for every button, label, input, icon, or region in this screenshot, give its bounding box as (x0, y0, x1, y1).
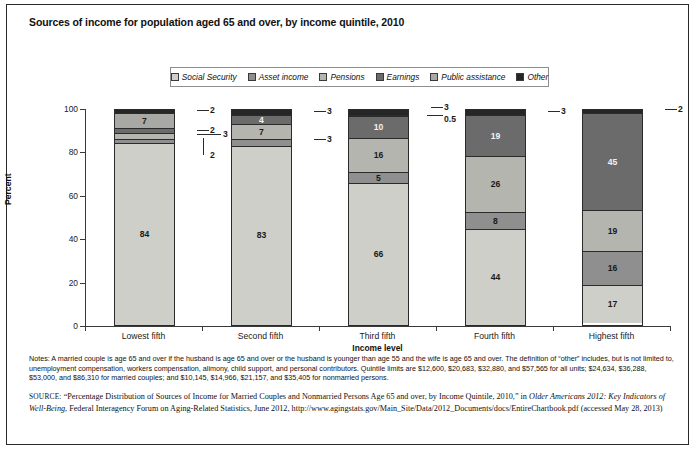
callout-leader-line (314, 111, 326, 112)
segment-value-label: 5 (376, 174, 381, 183)
bar-segment[interactable]: 7 (115, 114, 174, 129)
legend-item: Pensions (319, 72, 364, 82)
segment-value-label: 26 (491, 180, 501, 189)
bar-segment[interactable]: 44 (466, 230, 525, 325)
bar-segment[interactable]: 10 (349, 117, 408, 138)
bar-group-second-fifth: 347383 (203, 109, 320, 326)
legend-swatch-icon (516, 73, 524, 81)
bar-segment[interactable]: 16 (583, 252, 642, 286)
bar-segment[interactable]: 5 (349, 173, 408, 184)
segment-value-label: 83 (257, 231, 267, 240)
x-tick-mark (670, 326, 671, 331)
segment-value-label: 4 (259, 116, 264, 125)
callout-leader-line (197, 110, 209, 111)
bar-segment[interactable]: 16 (349, 139, 408, 173)
segment-value-label: 16 (374, 151, 384, 160)
source-block: SOURCE: “Percentage Distribution of Sour… (29, 391, 674, 414)
bar-segment[interactable]: 7 (232, 125, 291, 140)
legend-label: Pensions (330, 72, 364, 82)
y-tick-label: 80 (69, 147, 78, 157)
stacked-bar[interactable]: 2723284 (114, 109, 175, 326)
stacked-bar[interactable]: 31926844 (465, 109, 526, 326)
callout-value: 3 (223, 130, 228, 139)
callout-leader-line (197, 130, 209, 131)
bar-segment[interactable]: 19 (466, 116, 525, 157)
legend-swatch-icon (171, 73, 179, 81)
bar-group-third-fifth: 30.51016566 (320, 109, 437, 326)
x-tick-label: Fourth fifth (436, 331, 553, 341)
bar-group-highest-fifth: 245191617 (554, 109, 671, 326)
bar-segment[interactable]: 8 (466, 213, 525, 230)
legend-swatch-icon (376, 73, 384, 81)
callout-leader-line (431, 107, 443, 108)
callout-value: 0.5 (444, 115, 456, 124)
source-part1: “Percentage Distribution of Sources of I… (62, 392, 529, 401)
segment-value-label: 7 (259, 128, 264, 137)
callout-leader-line (203, 138, 204, 155)
x-tick-label: Third fifth (319, 331, 436, 341)
stacked-bar[interactable]: 245191617 (582, 109, 643, 326)
y-tick-label: 100 (64, 104, 78, 114)
segment-value-label: 84 (140, 230, 150, 239)
bar-segment[interactable]: 4 (232, 116, 291, 125)
y-axis: Percent 020406080100 (7, 5, 85, 226)
segment-value-label: 10 (374, 123, 384, 132)
bar-segment[interactable]: 45 (583, 114, 642, 211)
bar-group-fourth-fifth: 31926844 (437, 109, 554, 326)
callout-value: 2 (210, 106, 215, 115)
segment-value-label: 7 (142, 117, 147, 126)
source-tag: SOURCE: (29, 392, 62, 401)
chart-legend: Social SecurityAsset incomePensionsEarni… (170, 67, 549, 87)
callout-value: 3 (327, 107, 332, 116)
segment-value-label: 66 (374, 250, 384, 259)
figure-frame: Sources of income for population aged 65… (6, 4, 689, 445)
source-part2: , Federal Interagency Forum on Aging-Rel… (65, 404, 663, 413)
callout-value: 2 (678, 105, 683, 114)
legend-label: Earnings (387, 72, 420, 82)
segment-value-label: 8 (493, 217, 498, 226)
segment-value-label: 19 (491, 132, 501, 141)
callout-leader-line (665, 109, 677, 110)
bar-segment[interactable]: 66 (349, 184, 408, 325)
legend-item: Other (516, 72, 548, 82)
callout-value: 3 (561, 107, 566, 116)
stacked-bar[interactable]: 347383 (231, 109, 292, 326)
bar-segment[interactable]: 19 (583, 211, 642, 252)
legend-label: Asset income (259, 72, 309, 82)
x-tick-label: Highest fifth (553, 331, 670, 341)
bar-segment[interactable]: 84 (115, 144, 174, 325)
segment-value-label: 19 (608, 227, 618, 236)
callout-value: 3 (327, 135, 332, 144)
legend-label: Social Security (182, 72, 237, 82)
plot-area: 272328434738330.510165663192684424519161… (85, 109, 671, 327)
callout-leader-line (548, 111, 560, 112)
y-tick-label: 40 (69, 234, 78, 244)
legend-label: Other (527, 72, 548, 82)
callout-leader-line (197, 134, 221, 135)
legend-item: Public assistance (430, 72, 505, 82)
callout-value: 2 (210, 151, 215, 160)
legend-item: Asset income (248, 72, 309, 82)
segment-value-label: 44 (491, 273, 501, 282)
segment-value-label: 17 (608, 300, 618, 309)
legend-swatch-icon (319, 73, 327, 81)
callout-leader-line (314, 139, 326, 140)
bar-group-lowest-fifth: 2723284 (86, 109, 203, 326)
chart-page: Sources of income for population aged 65… (0, 0, 695, 449)
stacked-bar[interactable]: 30.51016566 (348, 109, 409, 326)
y-tick-label: 0 (73, 321, 78, 331)
bar-segment[interactable]: 26 (466, 157, 525, 213)
y-tick-label: 20 (69, 278, 78, 288)
legend-swatch-icon (430, 73, 438, 81)
legend-swatch-icon (248, 73, 256, 81)
notes-text: Notes: A married couple is age 65 and ov… (29, 354, 674, 383)
x-axis-title: Income level (85, 343, 670, 353)
chart-title: Sources of income for population aged 65… (29, 16, 404, 28)
bar-segment[interactable]: 17 (583, 286, 642, 323)
segment-value-label: 45 (608, 158, 618, 167)
y-axis-title: Percent (3, 173, 13, 205)
segment-value-label: 16 (608, 264, 618, 273)
notes-block: Notes: A married couple is age 65 and ov… (29, 354, 674, 383)
bar-segment[interactable]: 83 (232, 147, 291, 325)
x-tick-label: Second fifth (202, 331, 319, 341)
